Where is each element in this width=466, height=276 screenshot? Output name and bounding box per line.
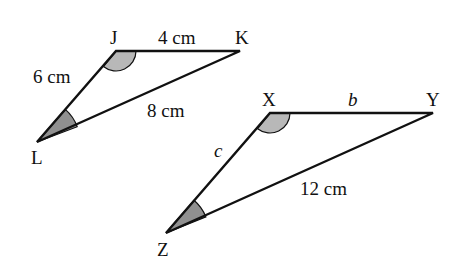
side-label-kl: 8 cm [147, 100, 185, 121]
triangle-xyz-edges [166, 113, 433, 233]
side-label-yz: 12 cm [300, 178, 347, 199]
vertex-label-k: K [235, 27, 249, 48]
triangle-jkl-edges [37, 51, 240, 142]
side-label-jl: 6 cm [33, 66, 71, 87]
vertex-label-j: J [110, 27, 117, 48]
triangle-jkl [37, 51, 240, 142]
vertex-label-z: Z [157, 239, 169, 260]
triangle-xyz [166, 113, 433, 233]
side-label-jk: 4 cm [158, 27, 196, 48]
vertex-label-y: Y [426, 89, 440, 110]
side-label-xz: c [214, 140, 223, 161]
vertex-label-x: X [262, 89, 276, 110]
side-label-xy: b [348, 89, 358, 110]
similar-triangles-diagram: J K L X Y Z 4 cm 6 cm 8 cm b c 12 cm [0, 0, 466, 276]
vertex-label-l: L [31, 147, 43, 168]
